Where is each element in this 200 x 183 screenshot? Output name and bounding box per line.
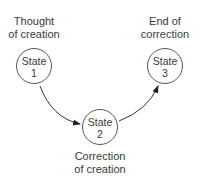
caption-line: Thought (4, 15, 64, 28)
state-3-caption: End of correction (135, 15, 195, 41)
state-number: 3 (148, 67, 182, 79)
caption-line: of creation (4, 28, 64, 41)
state-2-caption: Correction of creation (68, 150, 132, 176)
state-label: State (148, 55, 182, 67)
caption-line: Correction (68, 150, 132, 163)
state-label: State (17, 55, 51, 67)
caption-line: End of (135, 15, 195, 28)
state-number: 1 (17, 67, 51, 79)
caption-line: of creation (68, 163, 132, 176)
state-1-caption: Thought of creation (4, 15, 64, 41)
arrow-state2-to-state3 (119, 86, 158, 121)
state-number: 2 (83, 128, 117, 140)
arrow-state1-to-state2 (40, 86, 80, 124)
state-3-node: State 3 (147, 48, 183, 84)
caption-line: correction (135, 28, 195, 41)
state-1-node: State 1 (16, 48, 52, 84)
state-label: State (83, 116, 117, 128)
state-2-node: State 2 (82, 109, 118, 145)
